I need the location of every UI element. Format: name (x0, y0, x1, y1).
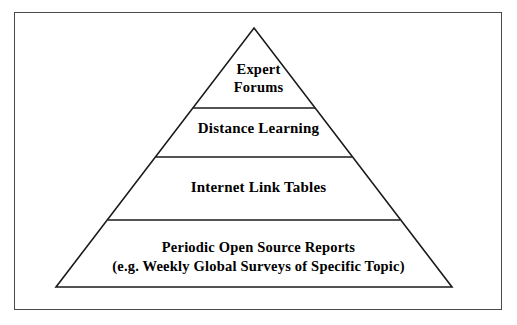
tier-4-label: Periodic Open Source Reports (e.g. Weekl… (0, 238, 517, 276)
tier-4-line-1: Periodic Open Source Reports (0, 238, 517, 257)
tier-2-line-1: Distance Learning (0, 120, 517, 137)
tier-1-line-1: Expert (0, 61, 517, 79)
pyramid-diagram-figure: Expert Forums Distance Learning Internet… (0, 0, 517, 325)
tier-3-label: Internet Link Tables (0, 179, 517, 196)
tier-3-line-1: Internet Link Tables (0, 179, 517, 196)
tier-4-line-2: (e.g. Weekly Global Surveys of Specific … (0, 257, 517, 276)
tier-1-line-2: Forums (0, 79, 517, 97)
tier-2-label: Distance Learning (0, 120, 517, 137)
tier-1-label: Expert Forums (0, 61, 517, 96)
